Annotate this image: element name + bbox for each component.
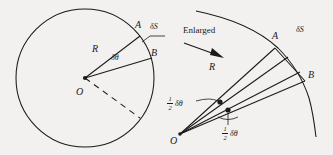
dashed-reference-line [85,78,140,118]
half-angle-symbol-upper: δθ [175,100,183,108]
label-delta-S-left: δS [150,23,158,31]
label-point-A-right: A [272,31,278,41]
fraction-one-half-upper: 1 2 [167,96,173,112]
half-angle-upper-leader [196,99,218,101]
chord-A-to-B [275,48,305,81]
ray-O-bisector [180,72,300,134]
enlarged-vertex-dot [178,132,182,136]
label-half-delta-theta-upper: 1 2 δθ [167,96,183,112]
label-point-B-left: B [151,48,157,58]
label-enlarged: Enlarged [183,26,215,35]
angle-marker-dot-lower [225,107,230,112]
geometry-figure: A B O R δθ δS Enlarged A B O R δS 1 2 δθ… [0,0,333,155]
label-vertex-O-right: O [170,136,177,146]
label-radius-R-left: R [92,44,98,54]
label-radius-R-right: R [209,62,215,72]
angle-marker-dot-upper [217,99,222,104]
enlarged-arrow-head [210,48,224,58]
ray-O-to-A [180,48,275,134]
half-angle-symbol-lower: δθ [230,130,238,138]
left-circle-group [16,9,165,147]
label-delta-S-right: δS [296,26,304,34]
centre-dot [83,76,87,80]
figure-canvas [0,0,333,155]
arc-label-leader [142,36,165,42]
label-half-delta-theta-lower: 1 2 δθ [222,126,238,142]
label-point-A-left: A [135,20,141,30]
enlarged-arrow-group [184,43,224,58]
label-point-B-right: B [308,70,314,80]
label-delta-theta-left: δθ [111,54,119,62]
fraction-one-half-lower: 1 2 [222,126,228,142]
label-centre-O-left: O [76,87,83,97]
